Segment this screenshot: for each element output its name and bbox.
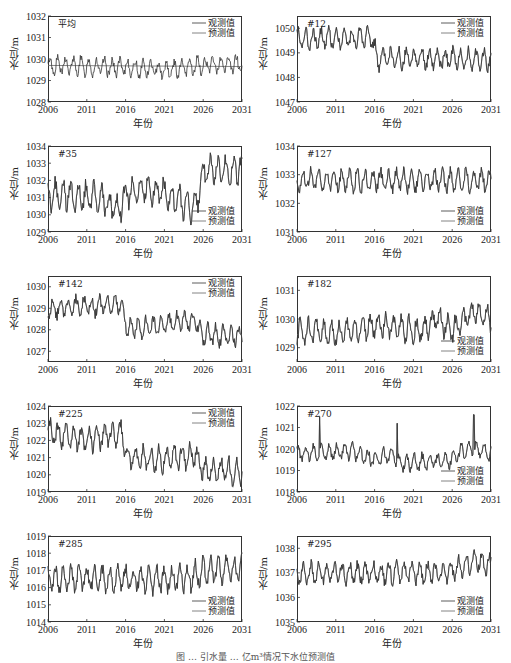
y-axis-label: 水位/m [7,427,22,460]
svg-text:#285: #285 [58,539,83,549]
svg-text:2021: 2021 [403,624,423,635]
svg-text:2016: 2016 [116,624,136,635]
svg-text:1031: 1031 [26,32,46,43]
svg-text:1027: 1027 [26,346,46,357]
svg-text:平均: 平均 [58,18,76,29]
svg-text:1019: 1019 [26,531,46,542]
svg-text:1016: 1016 [26,582,46,593]
x-axis-label: 年份 [382,505,402,520]
svg-text:预测值: 预测值 [457,345,484,356]
svg-text:1017: 1017 [26,565,46,576]
svg-text:1018: 1018 [275,487,295,498]
svg-text:2011: 2011 [77,364,97,375]
svg-text:2011: 2011 [326,624,346,635]
x-axis-label: 年份 [382,245,402,260]
x-axis-label: 年份 [133,375,153,390]
svg-text:1020: 1020 [275,444,295,455]
x-axis-label: 年份 [133,505,153,520]
svg-text:观测值: 观测值 [208,595,235,606]
svg-text:2016: 2016 [365,234,385,245]
figure-caption: 图 … 引水量 … 亿m³情况下水位预测值 [0,650,511,663]
svg-text:2031: 2031 [481,624,501,635]
svg-text:2016: 2016 [365,624,385,635]
svg-text:预测值: 预测值 [457,605,484,616]
chart-panel-well-12: 2006201120162021202620311047104810491050… [297,16,491,102]
svg-text:2026: 2026 [442,104,462,115]
chart-panel-well-285: 2006201120162021202620311014101510161017… [48,536,242,622]
svg-text:预测值: 预测值 [457,475,484,486]
svg-text:1018: 1018 [26,548,46,559]
y-axis-label: 水位/m [7,167,22,200]
svg-text:2016: 2016 [365,494,385,505]
svg-text:2031: 2031 [232,364,252,375]
svg-text:2031: 2031 [481,104,501,115]
svg-text:1031: 1031 [26,192,46,203]
svg-text:1038: 1038 [275,543,295,554]
svg-text:2021: 2021 [403,104,423,115]
x-axis-label: 年份 [133,115,153,130]
svg-text:1022: 1022 [26,435,46,446]
svg-text:#225: #225 [58,409,83,419]
svg-text:1032: 1032 [275,198,295,209]
svg-text:1031: 1031 [275,227,295,238]
svg-text:2031: 2031 [232,494,252,505]
svg-text:2011: 2011 [326,364,346,375]
svg-text:观测值: 观测值 [208,407,235,418]
svg-text:2021: 2021 [403,494,423,505]
svg-text:#35: #35 [58,149,77,159]
y-axis-label: 水位/m [256,37,271,70]
svg-text:2031: 2031 [481,364,501,375]
svg-text:2026: 2026 [193,104,213,115]
svg-text:#127: #127 [307,149,332,159]
svg-text:观测值: 观测值 [457,465,484,476]
svg-text:2011: 2011 [326,104,346,115]
svg-text:1028: 1028 [26,324,46,335]
svg-text:2011: 2011 [326,494,346,505]
svg-text:2016: 2016 [116,104,136,115]
svg-text:2016: 2016 [365,104,385,115]
svg-text:2016: 2016 [116,364,136,375]
chart-panel-well-35: 2006201120162021202620311029103010311032… [48,146,242,232]
svg-text:2021: 2021 [154,364,174,375]
svg-text:#12: #12 [307,19,326,29]
svg-text:1029: 1029 [275,342,295,353]
svg-text:2031: 2031 [232,624,252,635]
svg-text:2021: 2021 [154,104,174,115]
svg-text:预测值: 预测值 [208,27,235,38]
svg-text:1030: 1030 [275,314,295,325]
svg-text:2011: 2011 [77,234,97,245]
svg-text:观测值: 观测值 [457,595,484,606]
svg-text:1029: 1029 [26,75,46,86]
svg-text:1022: 1022 [275,401,295,412]
svg-text:1028: 1028 [26,97,46,108]
chart-panel-well-142: 2006201120162021202620311027102810291030… [48,276,242,362]
svg-text:1049: 1049 [275,47,295,58]
svg-text:1048: 1048 [275,72,295,83]
svg-text:2021: 2021 [154,234,174,245]
chart-panel-well-182: 200620112016202120262031102910301031#182… [297,276,491,362]
svg-text:1033: 1033 [26,158,46,169]
x-axis-label: 年份 [382,115,402,130]
svg-text:1024: 1024 [26,401,46,412]
svg-text:2026: 2026 [442,494,462,505]
y-axis-label: 水位/m [256,167,271,200]
x-axis-label: 年份 [133,635,153,650]
svg-text:1029: 1029 [26,227,46,238]
svg-text:观测值: 观测值 [457,17,484,28]
svg-text:2026: 2026 [193,234,213,245]
svg-text:1031: 1031 [275,285,295,296]
x-axis-label: 年份 [133,245,153,260]
chart-panel-well-270: 2006201120162021202620311018101910201021… [297,406,491,492]
svg-text:1019: 1019 [26,487,46,498]
svg-text:2021: 2021 [154,624,174,635]
svg-text:1021: 1021 [26,452,46,463]
svg-text:观测值: 观测值 [208,17,235,28]
svg-text:2026: 2026 [193,624,213,635]
svg-text:1021: 1021 [275,422,295,433]
y-axis-label: 水位/m [256,297,271,330]
svg-text:2016: 2016 [116,234,136,245]
y-axis-label: 水位/m [7,37,22,70]
y-axis-label: 水位/m [7,557,22,590]
svg-text:预测值: 预测值 [208,417,235,428]
svg-text:观测值: 观测值 [208,277,235,288]
